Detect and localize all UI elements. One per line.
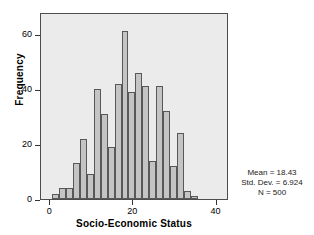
histogram-bar: [163, 111, 170, 199]
stat-stddev: Std. Dev. = 6.924: [232, 178, 312, 188]
histogram-bar: [66, 188, 73, 199]
histogram-bar: [80, 139, 87, 200]
histogram-bar: [156, 86, 163, 199]
histogram-bar: [115, 84, 122, 200]
histogram-bar: [101, 114, 108, 199]
histogram-bar: [177, 133, 184, 199]
x-axis-tick-mark: [216, 200, 217, 205]
bars-layer: [41, 14, 227, 199]
x-axis-tick-mark: [49, 200, 50, 205]
stat-mean: Mean = 18.43: [232, 168, 312, 178]
histogram-bar: [170, 166, 177, 199]
histogram-bar: [108, 147, 115, 199]
histogram-bar: [135, 73, 142, 200]
histogram-bar: [122, 31, 129, 199]
histogram-bar: [149, 161, 156, 200]
histogram-bar: [94, 89, 101, 199]
histogram-bar: [184, 191, 191, 199]
stat-n: N = 500: [232, 188, 312, 198]
histogram-bar: [191, 196, 198, 199]
x-axis-title: Socio-Economic Status: [40, 218, 228, 229]
x-axis-tick-label: 40: [204, 207, 228, 216]
histogram-figure: 0204060 Frequency 02040 Socio-Economic S…: [0, 0, 314, 235]
histogram-bar: [142, 86, 149, 199]
histogram-bar: [87, 174, 94, 199]
x-axis-tick-mark: [132, 200, 133, 205]
histogram-bar: [73, 163, 80, 199]
statistics-annotation: Mean = 18.43 Std. Dev. = 6.924 N = 500: [232, 168, 312, 198]
histogram-bar: [52, 194, 59, 200]
y-axis-title: Frequency: [14, 35, 25, 125]
x-axis-tick-label: 20: [120, 207, 144, 216]
x-axis-tick-label: 0: [37, 207, 61, 216]
histogram-bar: [128, 92, 135, 199]
histogram-bar: [59, 188, 66, 199]
y-axis-tick-label: 20: [22, 140, 32, 149]
plot-area: [40, 13, 228, 200]
